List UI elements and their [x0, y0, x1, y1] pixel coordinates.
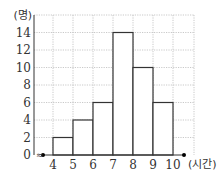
- y-tick-labels: 0 2 4 6 8 10 12 14: [16, 26, 32, 163]
- svg-text:6: 6: [89, 158, 97, 172]
- histogram-chart: 0 2 4 6 8 10 12 14 (명) ≈ 4 5 6 7 8 9 10 …: [0, 0, 224, 176]
- x-axis-unit: (시간): [188, 158, 217, 171]
- x-axis-end-dot: [182, 153, 186, 157]
- svg-text:8: 8: [129, 158, 137, 172]
- svg-text:8: 8: [23, 78, 31, 92]
- bar-5-6: [73, 120, 93, 155]
- svg-text:2: 2: [23, 131, 31, 145]
- svg-text:6: 6: [23, 96, 31, 110]
- svg-text:4: 4: [49, 158, 57, 172]
- svg-text:9: 9: [149, 158, 157, 172]
- y-axis-unit: (명): [13, 9, 32, 22]
- svg-text:10: 10: [16, 61, 31, 75]
- bar-7-8: [113, 33, 133, 156]
- x-tick-labels: 4 5 6 7 8 9 10: [49, 158, 180, 172]
- svg-text:14: 14: [16, 26, 32, 40]
- svg-text:10: 10: [165, 158, 180, 172]
- svg-text:0: 0: [23, 148, 31, 162]
- svg-text:12: 12: [16, 43, 31, 57]
- bar-8-9: [133, 68, 153, 156]
- svg-text:5: 5: [69, 158, 77, 172]
- bar-9-10: [153, 103, 173, 156]
- bar-4-5: [53, 138, 73, 156]
- bars: [53, 33, 173, 156]
- axis-break-icon: ≈: [36, 150, 44, 160]
- bar-6-7: [93, 103, 113, 156]
- svg-text:4: 4: [23, 113, 31, 127]
- svg-text:7: 7: [109, 158, 117, 172]
